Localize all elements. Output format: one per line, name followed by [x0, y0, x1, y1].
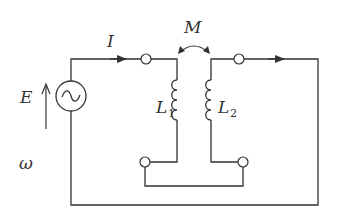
terminal-bottom-right — [238, 157, 248, 167]
terminal-top-right — [234, 54, 244, 64]
circuit-diagram: I M E ω L 1 L 2 — [0, 0, 337, 220]
emf-label: E — [19, 87, 33, 107]
mutual-inductance-label: M — [183, 17, 202, 37]
emf-arrow — [42, 84, 50, 129]
inductor-l2-subscript: 2 — [230, 107, 237, 120]
wire-to-l1 — [151, 59, 177, 80]
mutual-coupling-arrow — [178, 46, 210, 54]
inductor-l2 — [206, 80, 211, 120]
wire-top-left — [71, 59, 141, 81]
ac-source — [56, 81, 86, 111]
inductor-l2-label: L — [217, 97, 229, 117]
current-label: I — [106, 31, 114, 51]
inductor-l1-label: L — [155, 97, 167, 117]
terminal-top-left — [141, 54, 151, 64]
wire-l2-bottom — [211, 120, 238, 162]
inductor-l1-subscript: 1 — [168, 107, 175, 120]
short-link — [145, 167, 243, 186]
wire-l1-bottom — [150, 120, 177, 162]
wire-top-right — [71, 59, 318, 205]
wire-from-l2 — [211, 59, 234, 80]
wires — [71, 59, 318, 205]
angular-frequency-label: ω — [19, 153, 33, 173]
terminal-bottom-left — [140, 157, 150, 167]
